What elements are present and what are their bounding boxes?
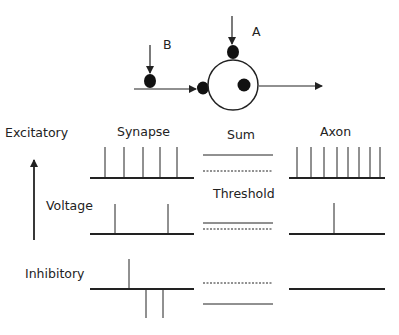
sum-header: Sum bbox=[227, 127, 255, 142]
axon-header: Axon bbox=[320, 124, 351, 139]
synapse-input-dot bbox=[197, 82, 209, 95]
inhibitory-label: Inhibitory bbox=[25, 266, 85, 281]
threshold-label: Threshold bbox=[212, 186, 275, 201]
synapse-b-dot bbox=[144, 74, 156, 88]
neuron-schematic: A B bbox=[134, 16, 322, 110]
traces bbox=[90, 147, 385, 318]
neuron-diagram: A B Synapse Sum Axon Threshold Excitator… bbox=[0, 0, 399, 335]
label-a: A bbox=[252, 24, 261, 39]
nucleus-dot bbox=[238, 79, 251, 92]
synapse-header: Synapse bbox=[117, 124, 170, 139]
excitatory-label: Excitatory bbox=[5, 125, 69, 140]
voltage-label: Voltage bbox=[46, 198, 93, 213]
synapse-a-dot bbox=[227, 45, 239, 59]
label-b: B bbox=[163, 37, 172, 52]
